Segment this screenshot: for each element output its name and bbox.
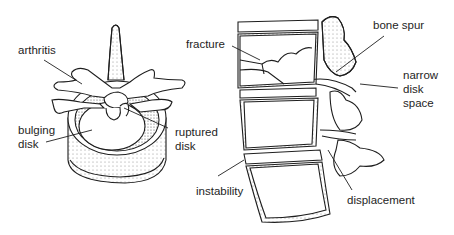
spine-side-view [238, 17, 384, 223]
vertebra-top-view [52, 25, 185, 183]
label-bulging-disk-line1: bulging [18, 124, 55, 137]
spine-conditions-diagram: arthritis bulging disk ruptured disk fra… [0, 0, 454, 235]
label-narrow-disk-space-line3: space [403, 97, 434, 110]
label-ruptured-disk-line1: ruptured [175, 126, 218, 139]
label-fracture: fracture [186, 38, 225, 51]
label-arthritis: arthritis [18, 44, 56, 57]
label-displacement: displacement [347, 194, 415, 207]
label-narrow-disk-space-line2: disk [403, 83, 423, 96]
label-ruptured-disk-line2: disk [175, 140, 195, 153]
label-instability: instability [196, 185, 243, 198]
narrow-disk-space-leader [360, 84, 398, 88]
instability-leader [218, 160, 244, 176]
label-bulging-disk-line2: disk [18, 138, 38, 151]
label-narrow-disk-space-line1: narrow [403, 69, 438, 82]
label-bone-spur: bone spur [373, 19, 424, 32]
